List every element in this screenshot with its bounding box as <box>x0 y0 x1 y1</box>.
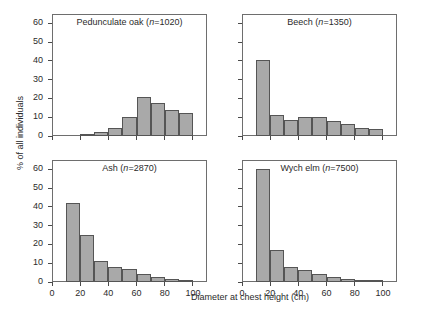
bar <box>80 134 94 136</box>
y-tick-label: 10 <box>23 257 43 267</box>
bar <box>122 269 136 282</box>
bar <box>151 277 165 282</box>
x-tick-label: 40 <box>97 288 119 298</box>
bar <box>369 280 383 282</box>
y-tick-label: 30 <box>23 74 43 84</box>
x-tick <box>382 282 383 286</box>
bar <box>256 60 270 136</box>
x-tick <box>108 136 109 140</box>
bar <box>355 128 369 136</box>
bar-series-pedunculate-oak <box>52 14 207 136</box>
bar <box>137 274 151 282</box>
x-tick <box>108 282 109 286</box>
y-tick-label: 50 <box>23 182 43 192</box>
bar <box>312 117 326 136</box>
x-tick <box>242 136 243 140</box>
x-tick <box>136 282 137 286</box>
x-tick-label: 60 <box>316 288 338 298</box>
bar <box>179 113 193 136</box>
x-tick <box>326 282 327 286</box>
x-tick-label: 100 <box>372 288 394 298</box>
y-tick-label: 20 <box>23 92 43 102</box>
panel-pedunculate-oak: Pedunculate oak (n=1020)0102030405060 <box>52 14 207 136</box>
x-tick <box>270 282 271 286</box>
y-tick-label: 60 <box>23 163 43 173</box>
x-tick-label: 80 <box>154 288 176 298</box>
panel-ash: Ash (n=2870)0102030405060020406080100 <box>52 160 207 282</box>
x-tick-label: 0 <box>41 288 63 298</box>
bar-series-beech <box>242 14 397 136</box>
x-tick <box>354 136 355 140</box>
x-tick-label: 60 <box>126 288 148 298</box>
bar <box>270 115 284 136</box>
panel-title: Ash (n=2870) <box>52 163 207 173</box>
bar <box>80 235 94 282</box>
x-tick <box>52 136 53 140</box>
x-tick-label: 0 <box>231 288 253 298</box>
x-tick <box>80 282 81 286</box>
panel-title: Wych elm (n=7500) <box>242 163 397 173</box>
bar <box>369 129 383 136</box>
x-tick-label: 80 <box>344 288 366 298</box>
bar <box>298 270 312 282</box>
x-tick <box>52 282 53 286</box>
bar <box>312 274 326 282</box>
panel-beech: Beech (n=1350) <box>242 14 397 136</box>
bar <box>165 110 179 136</box>
y-tick-label: 20 <box>23 238 43 248</box>
panel-title: Pedunculate oak (n=1020) <box>52 17 207 27</box>
x-tick <box>382 136 383 140</box>
bar <box>108 128 122 136</box>
x-tick <box>192 136 193 140</box>
x-tick <box>242 282 243 286</box>
bar <box>179 280 193 282</box>
panel-wych-elm: Wych elm (n=7500)020406080100 <box>242 160 397 282</box>
bar <box>284 120 298 136</box>
bar <box>327 277 341 282</box>
y-tick-label: 50 <box>23 36 43 46</box>
bar <box>341 279 355 282</box>
x-tick <box>326 136 327 140</box>
bar <box>137 97 151 136</box>
bar <box>270 250 284 282</box>
bar <box>94 132 108 136</box>
x-tick-label: 20 <box>69 288 91 298</box>
x-tick-label: 100 <box>182 288 204 298</box>
bar-series-wych-elm <box>242 160 397 282</box>
y-tick-label: 40 <box>23 55 43 65</box>
bar <box>284 267 298 282</box>
x-tick <box>164 282 165 286</box>
x-tick <box>80 136 81 140</box>
x-tick-label: 40 <box>287 288 309 298</box>
bar <box>355 280 369 282</box>
y-tick-label: 30 <box>23 220 43 230</box>
x-tick <box>354 282 355 286</box>
x-tick-label: 20 <box>259 288 281 298</box>
bar <box>165 279 179 282</box>
bar <box>256 169 270 282</box>
bar <box>151 103 165 136</box>
y-tick-label: 40 <box>23 201 43 211</box>
bar <box>298 117 312 136</box>
figure-histogram-grid: % of all individuals Diameter at chest h… <box>0 0 433 319</box>
y-tick-label: 0 <box>23 130 43 140</box>
y-tick-label: 60 <box>23 17 43 27</box>
bar-series-ash <box>52 160 207 282</box>
x-tick <box>192 282 193 286</box>
x-tick <box>270 136 271 140</box>
y-tick-label: 0 <box>23 276 43 286</box>
bar <box>94 261 108 282</box>
x-tick <box>298 136 299 140</box>
x-tick <box>298 282 299 286</box>
x-tick <box>164 136 165 140</box>
bar <box>122 117 136 136</box>
bar <box>108 267 122 282</box>
y-tick-label: 10 <box>23 111 43 121</box>
bar <box>341 124 355 136</box>
x-tick <box>136 136 137 140</box>
bar <box>66 203 80 282</box>
panel-title: Beech (n=1350) <box>242 17 397 27</box>
bar <box>327 121 341 136</box>
